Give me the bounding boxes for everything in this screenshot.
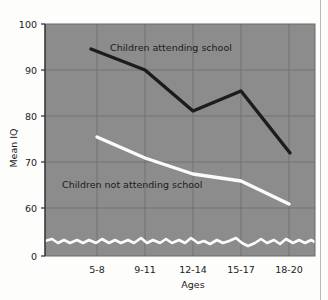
- plot-area-background: [45, 24, 315, 256]
- not-attending-series-label: Children not attending school: [62, 179, 202, 190]
- x-axis-title: Ages: [181, 279, 204, 290]
- y-tick-label-70: 70: [25, 157, 37, 168]
- y-tick-label-100: 100: [19, 19, 37, 30]
- x-tick-label-15-17: 15-17: [227, 264, 255, 275]
- chart-figure: 100 90 80 70 60 0 Mean IQ 5-8 9-11 12-14…: [0, 0, 328, 300]
- x-tick-label-12-14: 12-14: [179, 264, 207, 275]
- x-tick-label-18-20: 18-20: [275, 264, 303, 275]
- y-axis-title: Mean IQ: [8, 128, 19, 167]
- x-tick-label-5-8: 5-8: [89, 264, 105, 275]
- y-tick-label-90: 90: [25, 65, 37, 76]
- attending-series-label: Children attending school: [110, 42, 232, 53]
- x-tick-label-9-11: 9-11: [134, 264, 156, 275]
- y-tick-label-80: 80: [25, 111, 37, 122]
- line-chart: 100 90 80 70 60 0 Mean IQ 5-8 9-11 12-14…: [0, 0, 328, 300]
- y-tick-label-60: 60: [25, 203, 37, 214]
- y-tick-label-0: 0: [31, 251, 37, 262]
